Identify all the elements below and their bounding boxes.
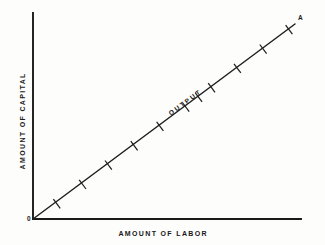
point-a-label: A <box>298 15 303 22</box>
plot-area <box>0 0 325 245</box>
origin-label: 0 <box>27 216 31 223</box>
y-axis-title: AMOUNT OF CAPITAL <box>19 62 26 182</box>
output-ray <box>33 24 295 219</box>
output-ray-group <box>33 24 295 219</box>
axes-group <box>33 13 301 219</box>
x-axis-title: AMOUNT OF LABOR <box>0 230 325 237</box>
figure-canvas: 0 A OUTPUT AMOUNT OF LABOR AMOUNT OF CAP… <box>0 0 325 245</box>
